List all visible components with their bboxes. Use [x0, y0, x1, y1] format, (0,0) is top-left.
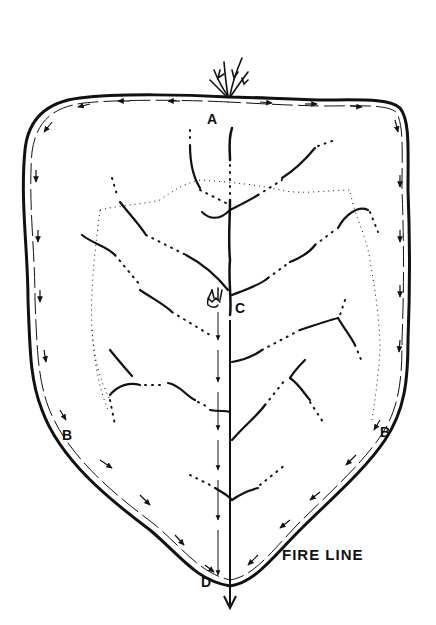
point-d-label: D: [201, 575, 211, 589]
fire-flame-icon-top: [210, 58, 248, 96]
point-b-left-label: B: [62, 428, 72, 442]
center-axis: [218, 312, 236, 608]
fire-flame-icon-center: [207, 288, 222, 307]
point-b-right-label: B: [380, 425, 390, 439]
point-c-label: C: [235, 301, 245, 315]
fire-line-label: FIRE LINE: [282, 547, 364, 562]
point-a-label: A: [207, 112, 217, 126]
fire-line-diagram: [0, 0, 436, 625]
